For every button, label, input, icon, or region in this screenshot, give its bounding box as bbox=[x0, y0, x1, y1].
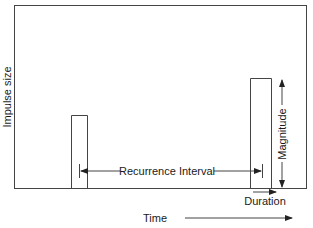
duration-label: Duration bbox=[244, 195, 286, 207]
second-impulse bbox=[251, 79, 272, 190]
impulse-diagram: Impulse size Recurrence Interval Magnitu… bbox=[0, 0, 313, 228]
magnitude-label: Magnitude bbox=[276, 108, 288, 159]
recurrence-interval-label: Recurrence Interval bbox=[119, 165, 215, 177]
x-axis-label: Time bbox=[143, 212, 167, 224]
y-axis-label: Impulse size bbox=[1, 66, 13, 127]
plot-frame bbox=[15, 6, 307, 189]
